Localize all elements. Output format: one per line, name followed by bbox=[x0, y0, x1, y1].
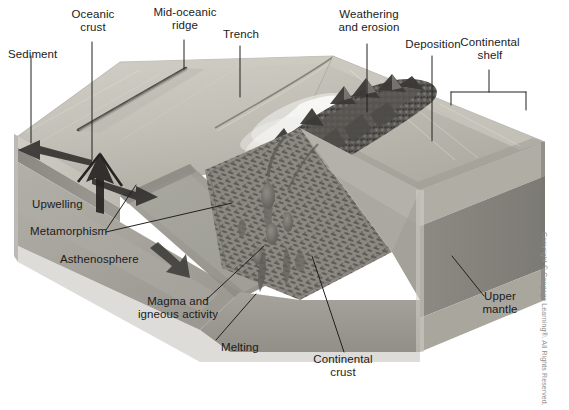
magma-blob bbox=[261, 183, 275, 209]
magma-blob bbox=[266, 223, 278, 245]
label-sediment: Sediment bbox=[8, 48, 57, 61]
label-magma-and-igneous-activity: Magma and igneous activity bbox=[128, 295, 228, 321]
figure-canvas: Sediment Oceanic crust Mid-oceanic ridge… bbox=[0, 0, 569, 410]
label-continental-crust: Continental crust bbox=[300, 353, 386, 379]
label-upwelling: Upwelling bbox=[32, 198, 83, 211]
label-weathering-and-erosion: Weathering and erosion bbox=[324, 8, 414, 34]
label-asthenosphere: Asthenosphere bbox=[60, 253, 139, 266]
copyright-notice: Copyright © Cengage Learning®. All Right… bbox=[541, 232, 548, 402]
label-metamorphism: Metamorphism bbox=[30, 225, 107, 238]
label-trench: Trench bbox=[214, 28, 268, 41]
label-continental-shelf: Continental shelf bbox=[449, 36, 531, 62]
label-upper-mantle: Upper mantle bbox=[473, 290, 527, 316]
magma-blob bbox=[283, 212, 293, 232]
block-left-face bbox=[14, 134, 18, 262]
label-melting: Melting bbox=[221, 341, 259, 354]
label-oceanic-crust: Oceanic crust bbox=[60, 8, 126, 34]
